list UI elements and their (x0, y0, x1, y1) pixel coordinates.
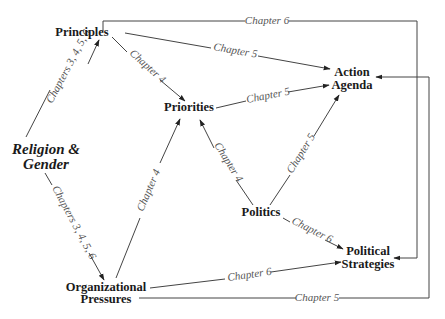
edge-label: Chapter 4 (128, 47, 169, 86)
edge-label: Chapter 6 (245, 14, 290, 26)
node-principles: Principles (55, 25, 109, 39)
edge-principles-to-political-strategies: Chapter 6 (103, 14, 417, 258)
edge-principles-to-priorities: Chapter 4 (112, 37, 185, 101)
edge-label: Chapter 6 (227, 265, 273, 283)
edge-politics-to-political-strategies: Chapter 6 (283, 214, 343, 249)
edge-label: Chapter 4 (212, 140, 246, 184)
node-political-strategies-line1: Political (346, 244, 390, 258)
node-religion-gender-line1: Religion & (11, 141, 80, 157)
edge-label: Chapter 5 (284, 131, 318, 175)
edge-label: Chapter 4 (134, 167, 163, 213)
diagram-canvas: Chapters 3, 4, 5, 6 Chapters 3, 4, 5, 6 … (0, 0, 445, 319)
edge-label: Chapter 5 (245, 85, 291, 105)
edge-priorities-to-action-agenda: Chapter 5 (216, 85, 329, 108)
edge-label: Chapter 6 (290, 214, 335, 245)
edge-religion-to-principles: Chapters 3, 4, 5, 6 (26, 27, 99, 137)
node-action-agenda-line2: Agenda (332, 78, 374, 92)
node-organizational-pressures: Organizational Pressures (66, 280, 147, 306)
node-priorities: Priorities (164, 100, 214, 114)
node-org-pressures-line2: Pressures (81, 292, 132, 306)
node-religion-gender-line2: Gender (23, 156, 69, 172)
node-religion-gender: Religion & Gender (11, 141, 80, 172)
node-politics: Politics (242, 205, 281, 219)
edge-politics-to-action-agenda: Chapter 5 (270, 95, 339, 205)
node-action-agenda: Action Agenda (332, 65, 374, 92)
edge-org-pressures-to-priorities: Chapter 4 (116, 119, 180, 278)
node-political-strategies-line2: Strategies (342, 257, 395, 271)
edge-org-pressures-to-political-strategies: Chapter 6 (150, 262, 341, 288)
node-political-strategies: Political Strategies (342, 244, 395, 271)
edge-label: Chapter 5 (295, 291, 340, 303)
edge-label: Chapters 3, 4, 5, 6 (50, 183, 99, 261)
edge-politics-to-priorities: Chapter 4 (200, 120, 253, 205)
edge-religion-to-org-pressures: Chapters 3, 4, 5, 6 (45, 173, 104, 280)
edge-label: Chapter 5 (213, 40, 259, 60)
node-action-agenda-line1: Action (334, 65, 369, 79)
